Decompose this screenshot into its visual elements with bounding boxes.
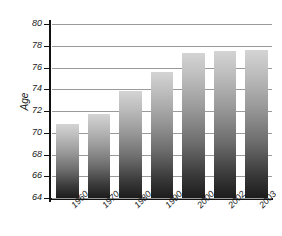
y-tick-mark	[44, 24, 50, 25]
y-tick-mark	[44, 111, 50, 112]
y-tick-mark	[44, 68, 50, 69]
y-tick-label-wrap: 72	[14, 106, 42, 115]
y-tick-label-wrap: 80	[14, 19, 42, 28]
y-tick-label: 72	[18, 106, 42, 115]
gridline	[52, 24, 272, 25]
y-tick-label: 68	[18, 150, 42, 159]
plot-area	[52, 24, 272, 198]
bar-chart: Age 646668707274767880 19601970198019902…	[0, 0, 282, 236]
y-tick-label-wrap: 74	[14, 84, 42, 93]
bar	[56, 124, 79, 198]
y-tick-label: 80	[18, 19, 42, 28]
y-tick-label-wrap: 78	[14, 41, 42, 50]
gridline	[52, 68, 272, 69]
y-tick-label: 76	[18, 63, 42, 72]
y-tick-mark	[44, 198, 50, 199]
y-tick-label-wrap: 70	[14, 128, 42, 137]
y-tick-label: 70	[18, 128, 42, 137]
y-tick-mark	[44, 176, 50, 177]
gridline	[52, 46, 272, 47]
y-tick-label: 66	[18, 171, 42, 180]
y-tick-label: 64	[18, 193, 42, 202]
y-tick-label-wrap: 64	[14, 193, 42, 202]
y-tick-mark	[44, 155, 50, 156]
y-tick-mark	[44, 46, 50, 47]
y-tick-label-wrap: 66	[14, 171, 42, 180]
y-tick-label: 78	[18, 41, 42, 50]
y-tick-label-wrap: 76	[14, 63, 42, 72]
y-tick-mark	[44, 133, 50, 134]
y-tick-mark	[44, 89, 50, 90]
y-tick-label-wrap: 68	[14, 150, 42, 159]
y-tick-label: 74	[18, 84, 42, 93]
